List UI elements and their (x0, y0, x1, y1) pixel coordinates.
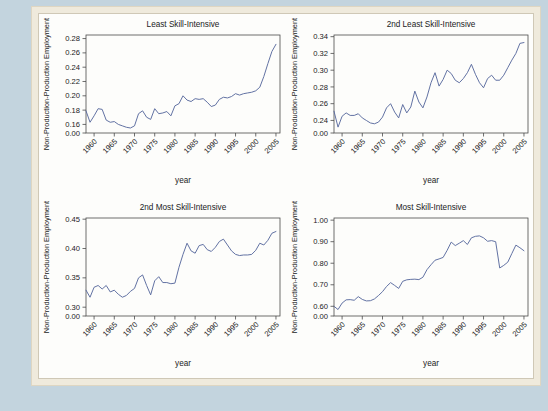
x-tick-label: 2000 (490, 320, 508, 338)
x-tick-label: 1990 (450, 320, 468, 338)
x-tick-label: 1980 (162, 320, 180, 338)
x-tick-label: 1990 (450, 137, 468, 155)
x-tick-label: 2005 (511, 137, 529, 155)
y-tick-label: 0.26 (313, 99, 328, 108)
y-tick-label: 0.40 (65, 244, 80, 253)
x-tick-label: 1965 (101, 137, 119, 155)
x-tick-label: 1975 (141, 320, 159, 338)
y-tick-label: 0.80 (313, 259, 328, 268)
y-tick-label: 0.24 (313, 116, 328, 125)
x-axis-label: year (423, 359, 439, 368)
x-tick-label: 1960 (81, 137, 99, 155)
y-tick-label: 0.34 (313, 32, 328, 41)
x-tick-label: 2005 (263, 137, 281, 155)
x-tick-label: 1985 (430, 137, 448, 155)
panel-title: Most Skill-Intensive (396, 203, 467, 212)
y-tick-label: 0.00 (313, 312, 328, 321)
x-tick-label: 1985 (182, 320, 200, 338)
data-series-line (334, 43, 524, 128)
x-axis-label: year (175, 176, 191, 185)
panel-title: 2nd Most Skill-Intensive (140, 203, 227, 212)
data-series-line (86, 232, 276, 298)
x-tick-label: 1980 (162, 137, 180, 155)
page-background: Least Skill-Intensive0.000.160.180.200.2… (0, 0, 548, 411)
x-tick-label: 2005 (263, 320, 281, 338)
chart-2nd-most-skill-intensive: 2nd Most Skill-Intensive0.000.300.350.40… (38, 196, 286, 379)
x-tick-label: 1980 (410, 137, 428, 155)
panel-title: Least Skill-Intensive (147, 20, 220, 29)
y-tick-label: 0.00 (313, 129, 328, 138)
x-tick-label: 1970 (121, 320, 139, 338)
panel-most-skill-intensive: Most Skill-Intensive0.000.600.700.800.90… (286, 196, 534, 379)
x-tick-label: 1995 (470, 137, 488, 155)
y-tick-label: 0.00 (65, 312, 80, 321)
x-tick-label: 1970 (121, 137, 139, 155)
x-tick-label: 1995 (470, 320, 488, 338)
figure-panel-grid: Least Skill-Intensive0.000.160.180.200.2… (38, 13, 534, 379)
plot-box (334, 218, 528, 316)
x-tick-label: 2000 (242, 137, 260, 155)
y-tick-label: 0.28 (313, 83, 328, 92)
y-tick-label: 0.30 (65, 303, 80, 312)
x-tick-label: 2000 (490, 137, 508, 155)
y-tick-label: 0.90 (313, 237, 328, 246)
y-tick-label: 0.30 (313, 66, 328, 75)
chart-least-skill-intensive: Least Skill-Intensive0.000.160.180.200.2… (38, 13, 286, 196)
x-tick-label: 1965 (349, 137, 367, 155)
y-tick-label: 0.18 (65, 106, 80, 115)
x-tick-label: 1985 (430, 320, 448, 338)
y-tick-label: 0.20 (65, 91, 80, 100)
y-tick-label: 0.35 (65, 273, 80, 282)
chart-2nd-least-skill-intensive: 2nd Least Skill-Intensive0.000.240.260.2… (286, 13, 534, 196)
x-tick-label: 1990 (202, 320, 220, 338)
x-tick-label: 1975 (389, 137, 407, 155)
y-tick-label: 0.22 (65, 77, 80, 86)
x-tick-label: 1980 (410, 320, 428, 338)
panel-2nd-least-skill-intensive: 2nd Least Skill-Intensive0.000.240.260.2… (286, 13, 534, 196)
y-tick-label: 1.00 (313, 216, 328, 225)
x-axis-label: year (175, 359, 191, 368)
y-axis-label: Non-Production-Production Employment (290, 18, 299, 150)
panel-title: 2nd Least Skill-Intensive (387, 20, 476, 29)
data-series-line (334, 236, 524, 310)
y-tick-label: 0.26 (65, 48, 80, 57)
caption-strip (31, 392, 211, 411)
y-axis-label: Non-Production-Production Employment (42, 18, 51, 150)
panel-least-skill-intensive: Least Skill-Intensive0.000.160.180.200.2… (38, 13, 286, 196)
x-tick-label: 1990 (202, 137, 220, 155)
y-tick-label: 0.28 (65, 34, 80, 43)
y-tick-label: 0.45 (65, 215, 80, 224)
x-tick-label: 2000 (242, 320, 260, 338)
x-tick-label: 1995 (222, 320, 240, 338)
x-tick-label: 1960 (329, 320, 347, 338)
y-tick-label: 0.32 (313, 49, 328, 58)
y-tick-label: 0.60 (313, 302, 328, 311)
x-tick-label: 1965 (349, 320, 367, 338)
x-tick-label: 1970 (369, 137, 387, 155)
x-tick-label: 1985 (182, 137, 200, 155)
x-tick-label: 1975 (389, 320, 407, 338)
x-tick-label: 1960 (329, 137, 347, 155)
plot-box (86, 218, 280, 316)
x-tick-label: 1960 (81, 320, 99, 338)
x-axis-label: year (423, 176, 439, 185)
x-tick-label: 1965 (101, 320, 119, 338)
y-tick-label: 0.70 (313, 280, 328, 289)
y-tick-label: 0.16 (65, 120, 80, 129)
panel-2nd-most-skill-intensive: 2nd Most Skill-Intensive0.000.300.350.40… (38, 196, 286, 379)
x-tick-label: 1970 (369, 320, 387, 338)
x-tick-label: 1975 (141, 137, 159, 155)
y-tick-label: 0.24 (65, 63, 80, 72)
plot-box (86, 35, 280, 133)
x-tick-label: 1995 (222, 137, 240, 155)
y-tick-label: 0.00 (65, 129, 80, 138)
chart-most-skill-intensive: Most Skill-Intensive0.000.600.700.800.90… (286, 196, 534, 379)
data-series-line (86, 44, 276, 128)
y-axis-label: Non-Production-Production Employment (42, 201, 51, 333)
x-tick-label: 2005 (511, 320, 529, 338)
y-axis-label: Non-Production-Production Employment (290, 201, 299, 333)
